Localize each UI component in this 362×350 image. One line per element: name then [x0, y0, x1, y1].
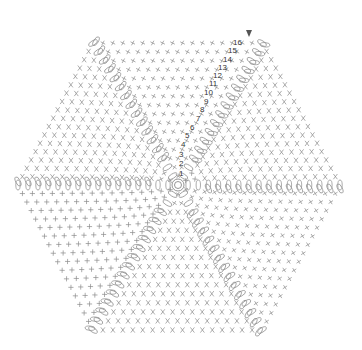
round-label-15: 15 [228, 46, 237, 55]
round-label-12: 12 [213, 71, 222, 80]
seam-chain-loops [14, 36, 344, 337]
round-label-6: 6 [190, 123, 195, 132]
magic-ring-inner-icon [175, 182, 182, 189]
round-label-2: 2 [179, 159, 184, 168]
round-label-4: 4 [181, 140, 186, 149]
magic-ring-icon [172, 179, 184, 191]
round-label-3: 3 [179, 150, 184, 159]
round-label-16: 16 [233, 38, 242, 47]
round-label-14: 14 [223, 55, 232, 64]
round-label-9: 9 [204, 97, 209, 106]
round-label-11: 11 [209, 79, 218, 88]
round-label-7: 7 [196, 114, 201, 123]
stitch-grid [20, 41, 338, 333]
crochet-hexagon-chart: 12345678910111213141516 [0, 0, 362, 350]
round-label-5: 5 [185, 131, 190, 140]
round-label-8: 8 [200, 105, 205, 114]
round-label-1: 1 [179, 169, 184, 178]
round-label-10: 10 [204, 88, 213, 97]
start-arrow-icon [246, 30, 252, 37]
round-label-13: 13 [218, 63, 227, 72]
